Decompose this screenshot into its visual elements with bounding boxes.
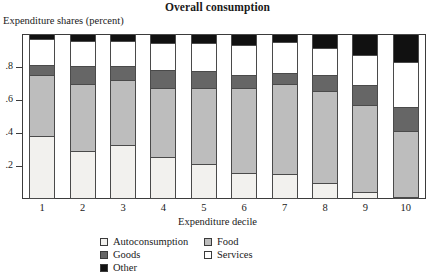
bar-segment-food[interactable]	[150, 88, 176, 156]
x-axis-label: Expenditure decile	[0, 216, 435, 227]
bar-segment-services[interactable]	[70, 41, 96, 67]
bar-segment-goods[interactable]	[231, 75, 257, 87]
bar-segment-other[interactable]	[110, 34, 136, 41]
legend-item[interactable]: Services	[204, 249, 253, 261]
x-axis-tick-label: 9	[350, 202, 380, 213]
bar-segment-autoconsumption[interactable]	[312, 183, 338, 200]
bar-segment-autoconsumption[interactable]	[231, 173, 257, 199]
bar-segment-other[interactable]	[191, 34, 217, 43]
bar-segment-other[interactable]	[312, 34, 338, 48]
bar-segment-food[interactable]	[191, 88, 217, 163]
bar-segment-food[interactable]	[312, 91, 338, 183]
legend-swatch-icon	[100, 251, 108, 259]
legend-item-label: Services	[217, 249, 253, 261]
legend-item[interactable]: Other	[100, 262, 188, 272]
y-axis-label: Expenditure shares (percent)	[3, 15, 124, 26]
bar-segment-services[interactable]	[352, 55, 378, 85]
bar-stack[interactable]	[352, 34, 378, 199]
bar-segment-goods[interactable]	[312, 75, 338, 91]
bar-stack[interactable]	[231, 34, 257, 199]
y-axis-tick-label: .8	[6, 60, 14, 71]
bar-segment-other[interactable]	[29, 34, 55, 39]
bar-segment-other[interactable]	[231, 34, 257, 45]
bar-segment-other[interactable]	[150, 34, 176, 43]
chart-title: Overall consumption	[0, 1, 435, 13]
x-axis-tick-label: 4	[148, 202, 178, 213]
bar-segment-goods[interactable]	[150, 70, 176, 88]
stacked-bar-chart: Overall consumption Expenditure shares (…	[0, 0, 435, 272]
x-axis-tick-label: 5	[189, 202, 219, 213]
bar-segment-food[interactable]	[231, 88, 257, 174]
bar-segment-goods[interactable]	[110, 66, 136, 80]
bar-segment-other[interactable]	[70, 34, 96, 41]
bar-segment-food[interactable]	[352, 105, 378, 192]
bar-stack[interactable]	[393, 34, 419, 199]
bar-segment-services[interactable]	[150, 43, 176, 70]
bar-stack[interactable]	[272, 34, 298, 199]
bar-stack[interactable]	[150, 34, 176, 199]
legend-item[interactable]: Food	[204, 236, 253, 248]
bar-segment-goods[interactable]	[272, 73, 298, 85]
x-axis-tick-label: 7	[270, 202, 300, 213]
x-axis-tick-label: 3	[108, 202, 138, 213]
bar-segment-food[interactable]	[29, 75, 55, 136]
y-axis-tick-label: .6	[6, 93, 14, 104]
legend-item-label: Food	[217, 236, 239, 248]
bar-segment-autoconsumption[interactable]	[352, 192, 378, 199]
bar-segment-services[interactable]	[110, 41, 136, 67]
bar-segment-autoconsumption[interactable]	[29, 136, 55, 199]
x-axis-tick-label: 1	[27, 202, 57, 213]
bar-segment-autoconsumption[interactable]	[272, 174, 298, 199]
legend-swatch-icon	[100, 264, 108, 272]
legend-item-label: Other	[113, 262, 137, 272]
legend-swatch-icon	[204, 251, 212, 259]
bar-segment-services[interactable]	[29, 39, 55, 65]
bar-stack[interactable]	[70, 34, 96, 199]
bar-segment-services[interactable]	[231, 45, 257, 76]
bar-segment-other[interactable]	[272, 34, 298, 42]
bar-segment-autoconsumption[interactable]	[110, 145, 136, 199]
bar-segment-services[interactable]	[312, 48, 338, 75]
bar-segment-autoconsumption[interactable]	[191, 164, 217, 199]
legend-swatch-icon	[204, 238, 212, 246]
bar-segment-other[interactable]	[352, 34, 378, 55]
bar-segment-goods[interactable]	[70, 66, 96, 83]
bar-stack[interactable]	[110, 34, 136, 199]
bar-segment-autoconsumption[interactable]	[70, 151, 96, 199]
legend-swatch-icon	[100, 238, 108, 246]
bar-segment-food[interactable]	[393, 131, 419, 196]
legend-item[interactable]: Goods	[100, 249, 188, 261]
y-axis-tick-label: .4	[6, 126, 14, 137]
bar-segment-goods[interactable]	[191, 71, 217, 88]
bars-layer	[22, 34, 426, 199]
y-axis-tick-label: .2	[6, 159, 14, 170]
legend-item-label: Goods	[113, 249, 140, 261]
legend-item[interactable]: Autoconsumption	[100, 236, 188, 248]
legend-column-left: AutoconsumptionGoodsOther	[100, 236, 188, 272]
x-axis-tick-label: 8	[310, 202, 340, 213]
bar-segment-goods[interactable]	[29, 65, 55, 76]
bar-segment-services[interactable]	[191, 43, 217, 71]
bar-stack[interactable]	[29, 34, 55, 199]
bar-segment-other[interactable]	[393, 34, 419, 62]
x-axis-tick-label: 2	[68, 202, 98, 213]
bar-stack[interactable]	[312, 34, 338, 199]
bar-segment-food[interactable]	[70, 84, 96, 152]
bar-segment-services[interactable]	[393, 62, 419, 107]
legend-column-right: FoodServices	[204, 236, 253, 262]
bar-segment-food[interactable]	[272, 84, 298, 174]
bar-segment-services[interactable]	[272, 42, 298, 73]
x-axis-tick-label: 6	[229, 202, 259, 213]
bar-segment-autoconsumption[interactable]	[150, 157, 176, 199]
bar-segment-goods[interactable]	[393, 107, 419, 131]
bar-segment-food[interactable]	[110, 80, 136, 145]
bar-stack[interactable]	[191, 34, 217, 199]
x-axis-tick-label: 10	[391, 202, 421, 213]
bar-segment-autoconsumption[interactable]	[393, 197, 419, 199]
bar-segment-goods[interactable]	[352, 85, 378, 105]
legend-item-label: Autoconsumption	[113, 236, 188, 248]
